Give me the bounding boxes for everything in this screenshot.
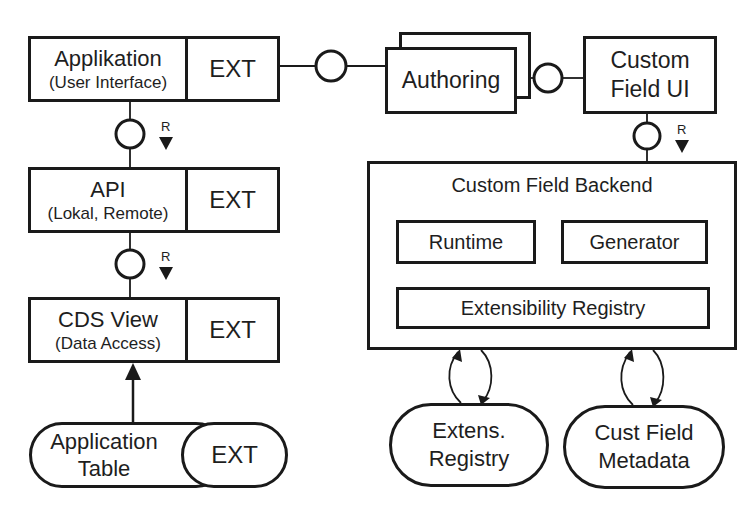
cust-field-metadata-line1: Cust Field bbox=[594, 419, 693, 447]
request-label: R bbox=[161, 249, 170, 264]
connector-applikation-api bbox=[116, 101, 173, 167]
extensibility-registry-component: Extensibility Registry bbox=[396, 287, 710, 329]
cust-field-metadata-line2: Metadata bbox=[598, 447, 690, 475]
application-table-ext: EXT bbox=[181, 422, 288, 488]
cds-view-component: CDS View (Data Access) EXT bbox=[28, 297, 280, 363]
extens-registry-line1: Extens. bbox=[432, 417, 505, 445]
interface-circle bbox=[316, 51, 346, 81]
interface-circle bbox=[116, 250, 144, 278]
request-label: R bbox=[161, 119, 170, 134]
connector-api-cdsview bbox=[116, 232, 173, 297]
api-subtitle: (Lokal, Remote) bbox=[48, 203, 169, 225]
connector-backend-metadata bbox=[621, 349, 663, 407]
custom-field-ui-line1: Custom bbox=[610, 46, 689, 75]
api-component: API (Lokal, Remote) EXT bbox=[28, 167, 280, 233]
api-ext-label: EXT bbox=[209, 186, 256, 214]
application-table-line1: Application bbox=[50, 428, 158, 455]
runtime-component: Runtime bbox=[396, 220, 536, 264]
api-title: API bbox=[90, 176, 125, 203]
application-table-ext-label: EXT bbox=[211, 441, 258, 469]
request-direction-icon bbox=[159, 267, 173, 280]
extens-registry-store: Extens. Registry bbox=[389, 403, 549, 487]
authoring-component: Authoring bbox=[385, 47, 517, 114]
applikation-title: Applikation bbox=[54, 45, 162, 72]
interface-circle bbox=[534, 64, 562, 92]
extens-registry-line2: Registry bbox=[429, 445, 510, 473]
interface-circle bbox=[116, 120, 144, 148]
authoring-title: Authoring bbox=[402, 67, 500, 94]
connector-table-cdsview bbox=[125, 363, 141, 422]
custom-field-backend-title: Custom Field Backend bbox=[370, 174, 734, 197]
connector-applikation-authoring bbox=[279, 51, 385, 81]
application-table-line2: Table bbox=[78, 455, 131, 482]
request-label: R bbox=[677, 122, 686, 137]
request-direction-icon bbox=[159, 137, 173, 150]
connector-backend-extensregistry bbox=[449, 349, 491, 405]
extensibility-registry-label: Extensibility Registry bbox=[461, 297, 646, 320]
runtime-label: Runtime bbox=[429, 231, 503, 254]
interface-circle bbox=[634, 123, 660, 149]
applikation-ext-label: EXT bbox=[209, 55, 256, 83]
applikation-component: Applikation (User Interface) EXT bbox=[28, 36, 280, 102]
generator-component: Generator bbox=[561, 220, 708, 264]
cds-view-subtitle: (Data Access) bbox=[55, 333, 161, 355]
cds-view-title: CDS View bbox=[58, 306, 158, 333]
generator-label: Generator bbox=[589, 231, 679, 254]
custom-field-ui-line2: Field UI bbox=[610, 75, 689, 104]
custom-field-ui-component: Custom Field UI bbox=[583, 36, 717, 114]
cds-view-ext-label: EXT bbox=[209, 316, 256, 344]
arrow-up-icon bbox=[125, 363, 141, 380]
connector-customfieldui-backend bbox=[634, 113, 689, 162]
request-direction-icon bbox=[675, 140, 689, 153]
applikation-subtitle: (User Interface) bbox=[49, 72, 167, 94]
cust-field-metadata-store: Cust Field Metadata bbox=[563, 405, 725, 489]
